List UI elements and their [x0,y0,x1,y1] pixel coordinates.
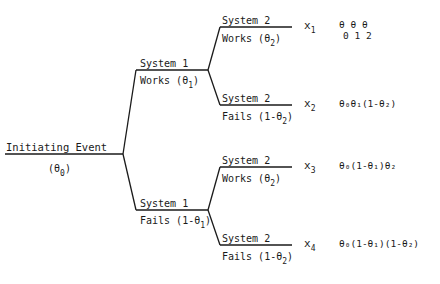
s1-works-title: System 1 [140,58,188,69]
paren: ) [205,215,211,226]
paren: ) [287,251,293,262]
outcome-x2-expr: θ₀θ₁(1-θ₂) [339,98,396,109]
outcome-x1: x1 [304,20,315,32]
s2-branch1-prob: Works (θ2) [222,33,281,45]
branch-s2-1 [208,27,220,70]
branch-s1-works [123,70,136,154]
branch-s1-fails [123,154,136,210]
outcome-var: x [304,159,311,172]
outcome-x4-expr: θ₀(1-θ₁)(1-θ₂) [339,238,419,249]
subscript: 2 [282,257,287,266]
s2-branch1-title: System 2 [222,15,270,26]
subscript: 0 [60,169,65,178]
outcome-x1-expr-bottom: 0 1 2 [343,31,372,41]
s1-works-prob: Works (θ1) [140,75,199,87]
paren: ) [287,111,293,122]
subscript: 1 [200,221,205,230]
outcome-x3: x3 [304,160,315,172]
outcome-x1-expr-top: θ θ θ [339,20,368,30]
s2-branch3-title: System 2 [222,155,270,166]
paren: ) [275,173,281,184]
label-text: Works (θ [222,173,270,184]
subscript: 1 [188,81,193,90]
label-text: Fails (1-θ [222,251,282,262]
subscript: 4 [311,244,316,253]
outcome-var: x [304,19,311,32]
s1-fails-title: System 1 [140,198,188,209]
paren: ) [275,33,281,44]
s2-branch4-title: System 2 [222,233,270,244]
subscript: 2 [282,117,287,126]
subscript: 3 [311,166,316,175]
subscript: 2 [270,179,275,188]
s2-branch4-prob: Fails (1-θ2) [222,251,293,263]
subscript: 1 [311,26,316,35]
label-text: Works (θ [140,75,188,86]
initiating-event-prob: (θ0) [48,163,71,175]
initiating-event-label: Initiating Event [6,142,107,153]
s2-branch2-title: System 2 [222,93,270,104]
branch-s2-2 [208,70,220,105]
outcome-var: x [304,97,311,110]
outcome-x2: x2 [304,98,315,110]
subscript: 2 [270,39,275,48]
outcome-x3-expr: θ₀(1-θ₁)θ₂ [339,160,396,171]
s1-fails-prob: Fails (1-θ1) [140,215,211,227]
subscript: 2 [311,104,316,113]
s2-branch2-prob: Fails (1-θ2) [222,111,293,123]
outcome-var: x [304,237,311,250]
label-text: Works (θ [222,33,270,44]
paren: ) [193,75,199,86]
label-text: Fails (1-θ [222,111,282,122]
s2-branch3-prob: Works (θ2) [222,173,281,185]
branch-s2-3 [208,167,220,210]
label-text: Fails (1-θ [140,215,200,226]
outcome-x4: x4 [304,238,315,250]
